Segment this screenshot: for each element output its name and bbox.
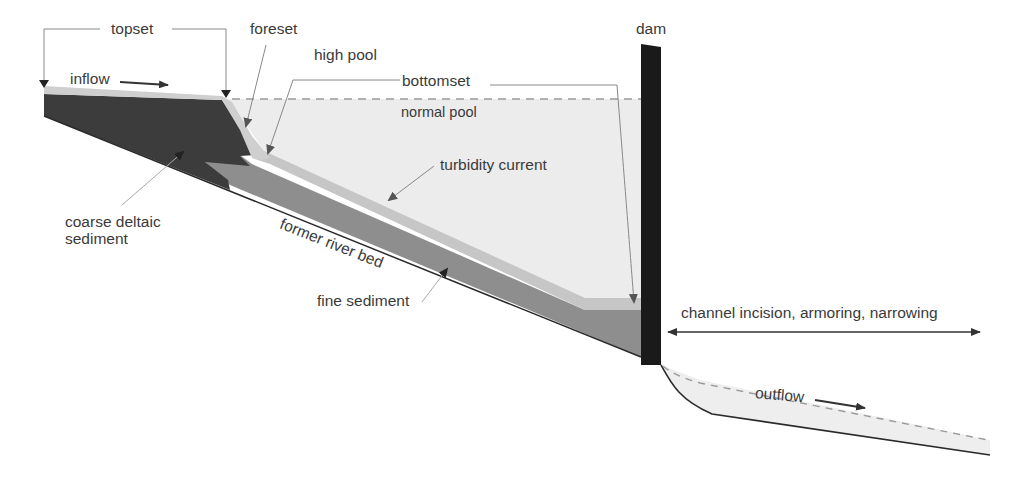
label-normal-pool: normal pool <box>401 105 477 121</box>
label-topset: topset <box>111 20 153 37</box>
outflow-water <box>661 365 990 455</box>
label-channel-change: channel incision, armoring, narrowing <box>681 304 938 321</box>
dam <box>641 44 661 365</box>
label-coarse-deltaic-sediment: coarse deltaic sediment <box>65 213 161 248</box>
inflow-arrow <box>120 82 168 85</box>
label-bottomset: bottomset <box>402 72 470 89</box>
label-dam: dam <box>636 20 666 37</box>
label-fine-sediment: fine sediment <box>317 292 409 309</box>
label-high-pool: high pool <box>314 46 377 63</box>
label-foreset: foreset <box>250 20 297 37</box>
label-turbidity-current: turbidity current <box>440 156 547 173</box>
label-inflow: inflow <box>70 70 110 87</box>
